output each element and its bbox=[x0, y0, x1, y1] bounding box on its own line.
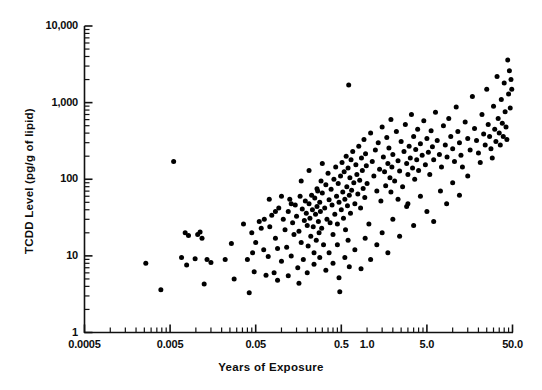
data-point bbox=[476, 151, 481, 156]
data-point bbox=[410, 166, 415, 171]
data-point bbox=[431, 219, 436, 224]
data-point bbox=[496, 116, 501, 121]
data-points-layer bbox=[143, 58, 514, 296]
data-point bbox=[472, 126, 477, 131]
data-point bbox=[193, 256, 198, 261]
data-point bbox=[487, 134, 492, 139]
data-point bbox=[283, 227, 288, 232]
data-point bbox=[338, 174, 343, 179]
data-point bbox=[394, 129, 399, 134]
data-point bbox=[312, 195, 317, 200]
data-point bbox=[301, 257, 306, 262]
data-point bbox=[323, 268, 328, 273]
data-point bbox=[334, 194, 339, 199]
data-point bbox=[383, 183, 388, 188]
data-point bbox=[418, 194, 423, 199]
data-point bbox=[229, 241, 234, 246]
data-point bbox=[266, 254, 271, 259]
data-point bbox=[463, 119, 468, 124]
data-point bbox=[250, 250, 255, 255]
data-point bbox=[411, 134, 416, 139]
data-point bbox=[340, 160, 345, 165]
data-point bbox=[392, 178, 397, 183]
data-point bbox=[261, 247, 266, 252]
data-point bbox=[412, 177, 417, 182]
y-axis-title: TCDD Level (pg/g of lipid) bbox=[23, 66, 35, 296]
data-point bbox=[347, 264, 352, 269]
data-point bbox=[380, 125, 385, 130]
data-point bbox=[423, 162, 428, 167]
data-point bbox=[350, 149, 355, 154]
data-point bbox=[424, 209, 429, 214]
data-point bbox=[373, 148, 378, 153]
data-point bbox=[388, 190, 393, 195]
data-point bbox=[399, 139, 404, 144]
data-point bbox=[483, 142, 488, 147]
data-point bbox=[337, 289, 342, 294]
data-point bbox=[499, 97, 504, 102]
data-point bbox=[287, 197, 292, 202]
data-point bbox=[337, 200, 342, 205]
data-point bbox=[495, 74, 500, 79]
data-point bbox=[452, 159, 457, 164]
data-point bbox=[341, 216, 346, 221]
data-point bbox=[507, 68, 512, 73]
data-point bbox=[424, 136, 429, 141]
data-point bbox=[474, 138, 479, 143]
data-point bbox=[257, 219, 262, 224]
data-point bbox=[316, 219, 321, 224]
data-point bbox=[376, 140, 381, 145]
data-point bbox=[342, 255, 347, 260]
data-point bbox=[359, 155, 364, 160]
data-point bbox=[321, 242, 326, 247]
data-point bbox=[438, 189, 443, 194]
data-point bbox=[342, 169, 347, 174]
data-point bbox=[381, 155, 386, 160]
data-point bbox=[401, 149, 406, 154]
data-point bbox=[290, 220, 295, 225]
data-point bbox=[319, 226, 324, 231]
data-point bbox=[416, 168, 421, 173]
data-point bbox=[354, 172, 359, 177]
data-point bbox=[328, 220, 333, 225]
data-point bbox=[396, 197, 401, 202]
data-point bbox=[502, 81, 507, 86]
data-point bbox=[344, 184, 349, 189]
data-point bbox=[478, 160, 483, 165]
data-point bbox=[202, 281, 207, 286]
data-point bbox=[179, 255, 184, 260]
data-point bbox=[465, 136, 470, 141]
data-point bbox=[320, 161, 325, 166]
data-point bbox=[364, 163, 369, 168]
data-point bbox=[441, 123, 446, 128]
x-tick-label: 0.005 bbox=[142, 338, 198, 350]
data-point bbox=[415, 127, 420, 132]
data-point bbox=[408, 155, 413, 160]
data-point bbox=[329, 187, 334, 192]
data-point bbox=[317, 200, 322, 205]
data-point bbox=[306, 243, 311, 248]
data-point bbox=[353, 162, 358, 167]
data-point bbox=[444, 201, 449, 206]
data-point bbox=[291, 232, 296, 237]
data-point bbox=[299, 240, 304, 245]
data-point bbox=[357, 178, 362, 183]
data-point bbox=[368, 257, 373, 262]
data-point bbox=[378, 199, 383, 204]
data-point bbox=[272, 270, 277, 275]
data-point bbox=[273, 209, 278, 214]
x-axis-ticks bbox=[85, 325, 513, 333]
data-point bbox=[298, 194, 303, 199]
data-point bbox=[484, 87, 489, 92]
data-point bbox=[347, 193, 352, 198]
data-point bbox=[397, 234, 402, 239]
data-point bbox=[247, 290, 252, 295]
x-tick-label: 1.0 bbox=[339, 338, 395, 350]
data-point bbox=[445, 155, 450, 160]
data-point bbox=[431, 157, 436, 162]
data-point bbox=[307, 216, 312, 221]
data-point bbox=[361, 186, 366, 191]
scatter-plot-figure: 1101001,00010,000 0.00050.0050.050.51.05… bbox=[0, 0, 542, 390]
data-point bbox=[411, 223, 416, 228]
data-point bbox=[363, 236, 368, 241]
